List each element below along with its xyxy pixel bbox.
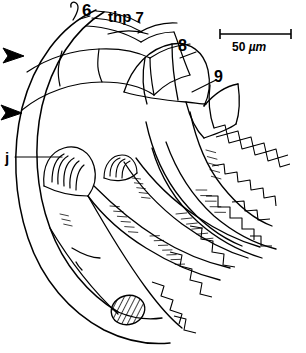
label-segment-8: 8 [178,38,187,54]
scale-bar-label: 50 µm [232,41,266,53]
label-segment-9: 9 [214,69,223,85]
scale-bar-unit: µm [249,40,267,54]
label-thp7: thp 7 [108,9,144,24]
label-j: j [5,150,9,165]
scale-bar-value: 50 [232,40,245,54]
label-segment-6: 6 [82,2,91,19]
